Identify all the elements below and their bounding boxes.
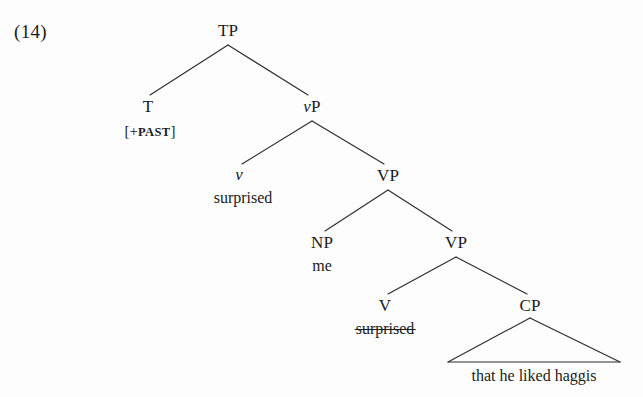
feature-close-bracket: ] [171,123,176,139]
terminal-v-big-surprised-trace: surprised [356,321,415,337]
node-t: T [143,98,154,115]
branch-vp-lower-cp [456,257,527,294]
branch-tp-t [150,45,228,95]
cp-triangle-right-edge [530,318,620,362]
example-number: (14) [14,22,47,41]
feature-past-label: PAST [138,125,171,139]
syntax-tree-figure: (14) TP T [+PAST] vP v surprised VP NP m… [0,0,643,397]
feature-open-bracket: [+ [124,123,137,139]
struck-through-text: surprised [356,321,415,337]
node-v-big: V [379,297,391,314]
terminal-cp-phrase: that he liked haggis [472,368,597,384]
branch-vp-upper-np [325,190,388,231]
terminal-v-small-surprised: surprised [214,190,273,206]
terminal-np-me: me [312,258,332,274]
branch-vp-small-v [242,121,312,164]
vp-small-italic-v: v [303,97,311,116]
branch-vp-small-vp-upper [312,121,384,164]
branch-vp-lower-v [388,257,456,294]
cp-triangle-left-edge [448,318,530,362]
branch-vp-upper-vp-lower [388,190,452,231]
vp-small-p: P [311,97,321,116]
node-vp-upper: VP [377,167,399,184]
branch-tp-vp-small [228,45,308,95]
tree-branches [0,0,643,397]
node-v-small: v [235,166,243,183]
node-vp-small: vP [303,98,320,115]
node-cp: CP [519,297,540,314]
node-tp: TP [218,22,238,39]
node-np: NP [311,234,333,251]
node-vp-lower: VP [445,234,467,251]
t-feature-bundle: [+PAST] [124,124,175,139]
